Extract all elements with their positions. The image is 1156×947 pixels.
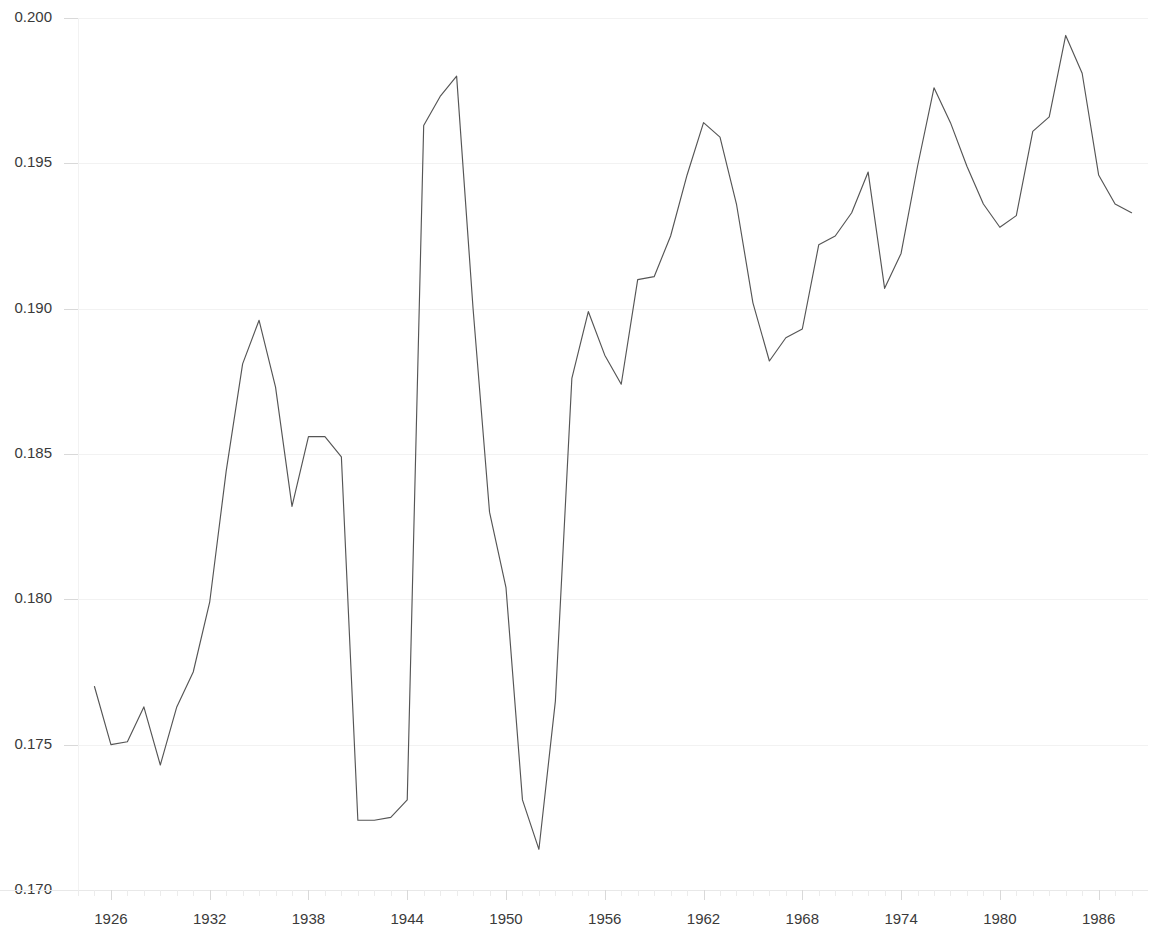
y-axis-ticks-group	[64, 19, 78, 891]
x-axis-tick-label: 1944	[391, 910, 424, 927]
x-axis-labels-group: 1926193219381944195019561962196819741980…	[94, 910, 1115, 927]
x-axis-tick-label: 1950	[489, 910, 522, 927]
data-series-group	[94, 35, 1131, 849]
x-axis-tick-label: 1962	[687, 910, 720, 927]
x-axis-tick-label: 1986	[1082, 910, 1115, 927]
gridlines-group	[78, 18, 1148, 891]
x-axis-tick-label: 1974	[884, 910, 917, 927]
y-axis-labels-group: 0.1700.1750.1800.1850.1900.1950.200	[14, 8, 52, 897]
y-axis-tick-label: 0.195	[14, 153, 52, 170]
y-axis-tick-label: 0.180	[14, 589, 52, 606]
x-axis-tick-label: 1980	[983, 910, 1016, 927]
x-axis-tick-label: 1968	[786, 910, 819, 927]
y-axis-tick-label: 0.175	[14, 735, 52, 752]
x-axis-tick-label: 1938	[292, 910, 325, 927]
y-axis-tick-label: 0.200	[14, 8, 52, 25]
x-axis-ticks-group	[79, 890, 1133, 900]
data-series-line	[94, 35, 1131, 849]
y-axis-tick-label: 0.170	[14, 880, 52, 897]
x-axis-tick-label: 1956	[588, 910, 621, 927]
line-chart: 0.1700.1750.1800.1850.1900.1950.200 1926…	[0, 0, 1156, 947]
x-axis-tick-label: 1932	[193, 910, 226, 927]
y-axis-tick-label: 0.190	[14, 299, 52, 316]
x-axis-tick-label: 1926	[94, 910, 127, 927]
chart-container: 0.1700.1750.1800.1850.1900.1950.200 1926…	[0, 0, 1156, 947]
y-axis-tick-label: 0.185	[14, 444, 52, 461]
